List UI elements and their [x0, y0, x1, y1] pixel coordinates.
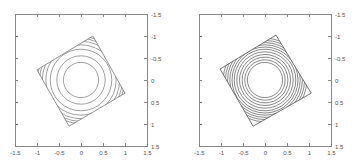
- left-plot: -1.5-1-0.500.511.5 -1.5-1-0.500.511.5: [0, 0, 176, 167]
- right-x-tick-labels: -1.5-1-0.500.511.5: [194, 150, 336, 156]
- x-tick-label: 1.5: [143, 150, 152, 156]
- right-contours: [220, 35, 311, 126]
- x-tick-label: -1: [219, 150, 225, 156]
- x-tick-label: 0.5: [99, 150, 108, 156]
- contour-line: [225, 40, 304, 119]
- x-tick-label: -0.5: [54, 150, 65, 156]
- left-plot-frame: [16, 15, 148, 147]
- y-tick-label: 1.5: [335, 144, 344, 150]
- contour-line: [50, 49, 112, 111]
- boundary-square: [220, 35, 311, 126]
- x-tick-label: 0: [80, 150, 84, 156]
- y-tick-label: -0.5: [151, 56, 162, 62]
- y-tick-label: 1: [151, 122, 155, 128]
- left-y-ticks: [15, 15, 147, 147]
- x-tick-label: 1: [308, 150, 312, 156]
- right-plot-canvas: -1.5-1-0.500.511.5 -1.5-1-0.500.511.5: [176, 0, 352, 167]
- left-x-ticks: [16, 14, 148, 146]
- x-tick-label: -1.5: [10, 150, 21, 156]
- contour-line: [42, 41, 119, 118]
- y-tick-label: -1.5: [335, 12, 346, 18]
- x-tick-label: -1.5: [194, 150, 205, 156]
- contour-line: [228, 43, 303, 118]
- left-plot-canvas: -1.5-1-0.500.511.5 -1.5-1-0.500.511.5: [0, 0, 176, 167]
- contour-line: [237, 52, 293, 108]
- y-tick-label: -1: [335, 34, 341, 40]
- left-x-tick-labels: -1.5-1-0.500.511.5: [10, 150, 152, 156]
- right-x-ticks: [200, 14, 332, 146]
- y-tick-label: -1: [151, 34, 157, 40]
- contour-line: [223, 38, 307, 122]
- x-tick-label: -0.5: [238, 150, 249, 156]
- y-tick-label: 1.5: [151, 144, 160, 150]
- y-tick-label: -0.5: [335, 56, 346, 62]
- right-plot: -1.5-1-0.500.511.5 -1.5-1-0.500.511.5: [176, 0, 352, 167]
- contour-line: [57, 56, 105, 104]
- y-tick-label: 0: [151, 78, 155, 84]
- left-contours: [37, 36, 125, 126]
- contour-line: [234, 49, 296, 111]
- left-y-tick-labels: -1.5-1-0.500.511.5: [151, 12, 162, 150]
- x-tick-label: 1: [124, 150, 128, 156]
- x-tick-label: 0: [264, 150, 268, 156]
- x-tick-label: 0.5: [283, 150, 292, 156]
- x-tick-label: 1.5: [327, 150, 336, 156]
- right-plot-frame: [200, 15, 332, 147]
- contour-line: [242, 57, 288, 103]
- y-tick-label: 0.5: [151, 100, 160, 106]
- y-tick-label: 0.5: [335, 100, 344, 106]
- contour-line: [40, 39, 123, 122]
- contour-line: [247, 62, 282, 97]
- contour-line: [245, 60, 285, 100]
- contour-line: [63, 62, 98, 97]
- y-tick-label: 0: [335, 78, 339, 84]
- x-tick-label: -1: [35, 150, 41, 156]
- right-y-ticks: [199, 15, 331, 147]
- y-tick-label: -1.5: [151, 12, 162, 18]
- y-tick-label: 1: [335, 122, 339, 128]
- right-y-tick-labels: -1.5-1-0.500.511.5: [335, 12, 346, 150]
